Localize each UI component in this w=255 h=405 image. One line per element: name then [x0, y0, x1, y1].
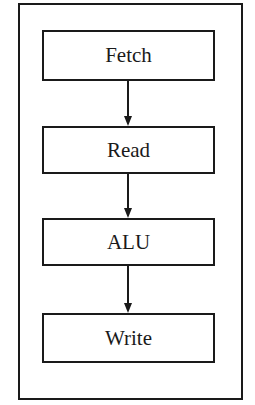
arrowhead-icon: [124, 116, 132, 126]
arrowhead-icon: [124, 303, 132, 313]
arrowhead-icon: [124, 208, 132, 218]
flow-arrows: [0, 0, 255, 405]
